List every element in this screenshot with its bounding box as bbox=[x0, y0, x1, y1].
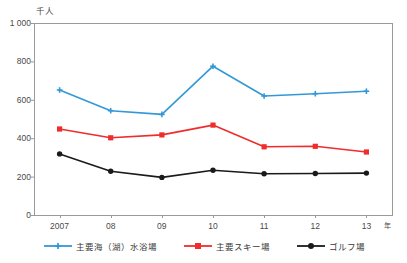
data-point-marker bbox=[313, 171, 318, 176]
y-axis-tick-label: 800 bbox=[17, 56, 31, 66]
legend-item[interactable]: 主要海（湖）水浴場 bbox=[43, 240, 157, 252]
y-axis-tick-labels: 02004006008001 000 bbox=[0, 0, 31, 263]
x-axis-unit-label: 年 bbox=[384, 220, 391, 230]
y-axis-tick-label: 200 bbox=[17, 172, 31, 182]
chart-legend: 主要海（湖）水浴場主要スキー場ゴルフ場 bbox=[0, 240, 407, 252]
y-axis-tick-label: 0 bbox=[26, 210, 31, 220]
data-point-marker bbox=[364, 149, 369, 154]
legend-label: 主要海（湖）水浴場 bbox=[76, 240, 157, 252]
x-axis-tick-label: 10 bbox=[208, 221, 217, 231]
data-point-marker bbox=[210, 123, 215, 128]
data-point-marker bbox=[57, 151, 62, 156]
legend-label: ゴルフ場 bbox=[329, 240, 365, 252]
data-point-marker bbox=[159, 175, 164, 180]
x-axis-tick-label: 09 bbox=[157, 221, 166, 231]
series-line bbox=[60, 154, 367, 178]
legend-marker-icon bbox=[296, 241, 326, 251]
data-point-marker bbox=[108, 135, 113, 140]
series-2 bbox=[57, 151, 369, 180]
x-axis-tick-label: 08 bbox=[106, 221, 115, 231]
legend-item[interactable]: ゴルフ場 bbox=[296, 240, 365, 252]
y-axis-tick-label: 1 000 bbox=[10, 18, 31, 28]
data-point-marker bbox=[210, 168, 215, 173]
line-chart: 千人 02004006008001 000 2007080910111213年 … bbox=[0, 0, 407, 263]
data-point-marker bbox=[57, 126, 62, 131]
x-axis-tick-label: 11 bbox=[260, 221, 269, 231]
series-line bbox=[60, 66, 367, 114]
y-axis-tick-label: 600 bbox=[17, 95, 31, 105]
data-point-marker bbox=[262, 144, 267, 149]
data-point-marker bbox=[108, 169, 113, 174]
data-point-marker bbox=[313, 144, 318, 149]
data-point-marker bbox=[364, 170, 369, 175]
legend-item[interactable]: 主要スキー場 bbox=[183, 240, 270, 252]
plot-frame bbox=[35, 24, 393, 216]
series-0 bbox=[57, 63, 369, 117]
series-1 bbox=[57, 123, 369, 155]
y-axis-tick-label: 400 bbox=[17, 133, 31, 143]
data-point-marker bbox=[261, 171, 266, 176]
legend-label: 主要スキー場 bbox=[216, 240, 270, 252]
x-axis-tick-label: 13 bbox=[362, 221, 371, 231]
y-axis-unit-label: 千人 bbox=[36, 4, 54, 16]
legend-marker-icon bbox=[43, 241, 73, 251]
series-line bbox=[60, 125, 367, 152]
x-axis-tick-label: 12 bbox=[311, 221, 320, 231]
legend-marker-icon bbox=[183, 241, 213, 251]
data-point-marker bbox=[159, 132, 164, 137]
x-axis-tick-label: 2007 bbox=[50, 221, 69, 231]
